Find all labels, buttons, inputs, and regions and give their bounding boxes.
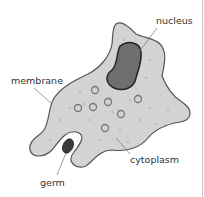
membrane-label: membrane (11, 76, 63, 86)
cell-illustration (0, 0, 204, 197)
membrane-leader (34, 88, 52, 104)
germ-leader (57, 153, 66, 175)
cell-diagram: nucleus membrane germ cytoplasm (0, 0, 204, 197)
cytoplasm-label: cytoplasm (130, 155, 179, 165)
cell-membrane (30, 23, 190, 167)
border-line (202, 0, 203, 197)
germ-label: germ (40, 178, 65, 188)
nucleus-label: nucleus (156, 16, 193, 26)
